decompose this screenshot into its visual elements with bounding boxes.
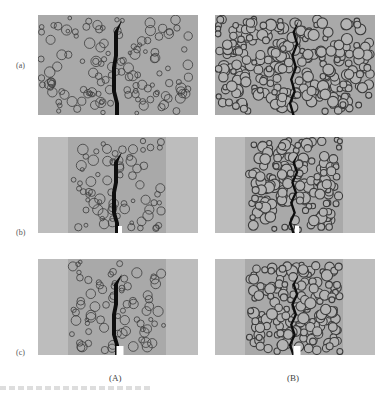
aggregate-particle [267, 331, 272, 336]
aggregate-particle [278, 93, 287, 102]
aggregate-particle [302, 207, 308, 213]
row-label-a: (a) [16, 61, 25, 70]
aggregate-particle [341, 19, 352, 30]
aggregate-particle [278, 64, 287, 73]
aggregate-particle [313, 346, 321, 354]
aggregate-particle [313, 327, 322, 336]
aggregate-particle [264, 56, 272, 64]
aggregate-particle [336, 145, 341, 150]
aggregate-particle [346, 50, 354, 58]
aggregate-particle [337, 139, 342, 144]
aggregate-particle [298, 313, 309, 324]
aggregate-particle [277, 23, 284, 30]
aggregate-particle [277, 170, 286, 179]
aggregate-particle [340, 102, 346, 108]
aggregate-particle [327, 167, 336, 176]
aggregate-particle [298, 265, 308, 275]
aggregate-particle [235, 48, 242, 55]
aggregate-particle [323, 200, 329, 206]
aggregate-particle [254, 291, 264, 301]
aggregate-particle [295, 77, 303, 85]
aggregate-particle [303, 49, 313, 59]
aggregate-particle [252, 187, 259, 194]
notch [295, 226, 299, 233]
aggregate-particle [233, 22, 239, 28]
aggregate-particle [241, 77, 251, 87]
aggregate-particle [227, 81, 238, 92]
aggregate-particle [307, 86, 316, 95]
micrograph [215, 15, 375, 115]
aggregate-particle [231, 69, 236, 74]
aggregate-particle [319, 152, 328, 161]
aggregate-particle [282, 312, 290, 320]
aggregate-particle [215, 66, 222, 73]
aggregate-particle [326, 343, 333, 350]
aggregate-particle [264, 344, 272, 352]
aggregate-particle [353, 48, 364, 59]
aggregate-particle [250, 215, 255, 220]
aggregate-particle [267, 140, 272, 145]
aggregate-particle [320, 170, 327, 177]
aggregate-particle [216, 47, 224, 55]
aggregate-particle [278, 143, 285, 150]
aggregate-particle [267, 309, 278, 320]
aggregate-particle [277, 339, 288, 350]
aggregate-particle [253, 265, 261, 273]
figure-caption-faint [0, 386, 150, 390]
aggregate-particle [248, 308, 254, 314]
aggregate-particle [265, 284, 275, 294]
aggregate-particle [252, 195, 259, 202]
aggregate-particle [312, 262, 320, 270]
aggregate-particle [283, 178, 293, 188]
aggregate-particle [283, 330, 293, 340]
aggregate-particle [271, 48, 280, 57]
aggregate-particle [256, 335, 262, 341]
aggregate-particle [252, 60, 257, 65]
aggregate-particle [328, 323, 337, 332]
aggregate-particle [260, 22, 267, 29]
micrograph [215, 137, 375, 233]
aggregate-particle [274, 154, 282, 162]
notch [117, 346, 124, 355]
aggregate-particle [257, 87, 263, 93]
panel-a-B [215, 15, 375, 115]
aggregate-particle [310, 338, 317, 345]
aggregate-particle [252, 318, 259, 325]
aggregate-particle [335, 263, 342, 270]
aggregate-particle [246, 35, 252, 41]
aggregate-particle [357, 83, 367, 93]
aggregate-particle [230, 32, 237, 39]
micrograph [38, 137, 198, 233]
aggregate-particle [266, 66, 272, 72]
aggregate-particle [309, 215, 319, 225]
aggregate-particle [248, 220, 258, 230]
aggregate-particle [318, 137, 326, 145]
aggregate-particle [217, 16, 224, 23]
aggregate-particle [272, 89, 277, 94]
aggregate-particle [309, 158, 315, 164]
aggregate-particle [268, 268, 274, 274]
panel-a-A [38, 15, 198, 115]
aggregate-particle [254, 65, 263, 74]
aggregate-particle [251, 142, 257, 148]
aggregate-particle [316, 47, 326, 57]
aggregate-particle [354, 21, 361, 28]
aggregate-particle [357, 71, 364, 78]
aggregate-particle [326, 46, 336, 56]
panel-c-A [38, 259, 198, 355]
aggregate-particle [304, 344, 313, 353]
aggregate-particle [295, 142, 301, 148]
aggregate-particle [320, 74, 326, 80]
aggregate-particle [273, 74, 281, 82]
aggregate-particle [267, 80, 274, 87]
aggregate-particle [322, 108, 328, 114]
aggregate-particle [280, 294, 287, 301]
aggregate-particle [255, 202, 262, 209]
aggregate-particle [320, 89, 330, 99]
aggregate-particle [329, 297, 335, 303]
aggregate-particle [295, 20, 301, 26]
aggregate-particle [278, 188, 287, 197]
aggregate-particle [256, 172, 265, 181]
aggregate-particle [268, 293, 274, 299]
row-label-c: (c) [16, 348, 25, 357]
